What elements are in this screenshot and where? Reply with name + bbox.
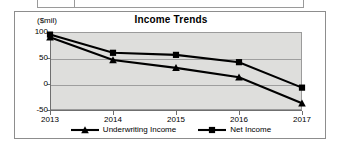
legend-item-underwriting-income[interactable]: Underwriting Income xyxy=(71,125,176,135)
y-axis-title: ($mil) xyxy=(37,16,57,25)
legend-label: Net Income xyxy=(230,126,271,134)
x-axis-tick-label: 2016 xyxy=(230,116,248,124)
y-axis-tick-label: 100 xyxy=(35,28,48,36)
x-axis-tick-label: 2015 xyxy=(167,116,185,124)
data-point-marker-square xyxy=(110,50,116,56)
legend-label: Underwriting Income xyxy=(103,126,176,134)
series-net-income xyxy=(47,32,305,91)
y-axis-tick-label: -50 xyxy=(36,106,48,114)
legend-item-net-income[interactable]: Net Income xyxy=(198,125,271,135)
legend-marker-square xyxy=(198,125,226,135)
y-axis-tick-label: 50 xyxy=(39,54,48,62)
legend-marker-triangle xyxy=(71,125,99,135)
cropped-table-strip xyxy=(37,0,304,8)
y-axis-tick-label: 0 xyxy=(44,80,48,88)
data-point-marker-square xyxy=(299,85,305,91)
x-axis-tick-label: 2017 xyxy=(293,116,311,124)
data-point-marker-square xyxy=(47,32,53,38)
chart-title: Income Trends xyxy=(15,14,327,25)
x-axis-tick-label: 2014 xyxy=(104,116,122,124)
chart-container: Income Trends ($mil) 100500-50 201320142… xyxy=(14,11,326,139)
data-point-marker-square xyxy=(236,59,242,65)
series-line xyxy=(50,35,302,88)
x-axis: 20132014201520162017 xyxy=(50,110,302,111)
data-point-marker-square xyxy=(173,52,179,58)
table-column-divider xyxy=(74,0,75,7)
chart-page: Income Trends ($mil) 100500-50 201320142… xyxy=(0,0,340,143)
data-point-marker-square xyxy=(209,127,215,133)
x-axis-tick-label: 2013 xyxy=(41,116,59,124)
series-plot xyxy=(50,32,302,110)
chart-legend: Underwriting IncomeNet Income xyxy=(15,125,327,135)
